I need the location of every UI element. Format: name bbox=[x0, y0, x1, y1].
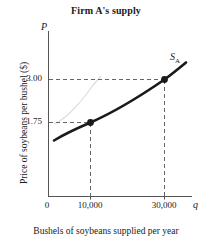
faint-artifact-curve bbox=[54, 76, 101, 124]
supply-curve bbox=[54, 63, 186, 141]
y-axis-label: Price of soybeans per bushel ($) bbox=[19, 37, 29, 209]
marker-point-10000 bbox=[87, 119, 94, 126]
x-tick-label-30000: 30,000 bbox=[140, 201, 188, 210]
x-tick-label-10000: 10,000 bbox=[66, 201, 114, 210]
supply-curve-label: SA bbox=[170, 52, 180, 66]
supply-curve-label-subscript: A bbox=[175, 57, 180, 65]
supply-chart-figure: Firm A's supply P q 3.00 1.75 0 10,000 3… bbox=[0, 0, 212, 246]
x-tick-label-origin: 0 bbox=[36, 201, 58, 210]
marker-point-30000 bbox=[161, 76, 168, 83]
x-axis-label: Bushels of soybeans supplied per year bbox=[0, 226, 212, 237]
